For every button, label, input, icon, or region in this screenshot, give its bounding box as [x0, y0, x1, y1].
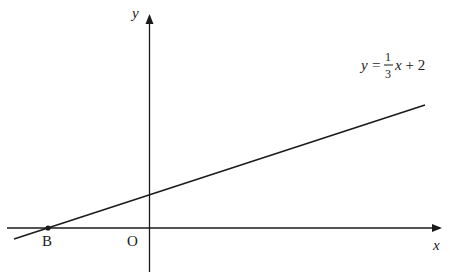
coordinate-diagram: B O x y y = 1 3 x + 2	[0, 0, 450, 275]
point-b-marker	[45, 225, 50, 230]
svg-text:y: y	[359, 57, 368, 73]
origin-label: O	[127, 233, 138, 249]
fraction-denominator: 3	[385, 67, 391, 81]
fraction-numerator: 1	[385, 50, 391, 64]
y-axis-label: y	[130, 5, 139, 21]
x-axis-label: x	[432, 237, 440, 253]
point-b-label: B	[42, 233, 52, 249]
svg-text:=: =	[372, 57, 380, 73]
svg-text:x + 2: x + 2	[394, 57, 425, 73]
graph-line	[14, 105, 425, 239]
equation-label: y = 1 3 x + 2	[359, 50, 425, 81]
